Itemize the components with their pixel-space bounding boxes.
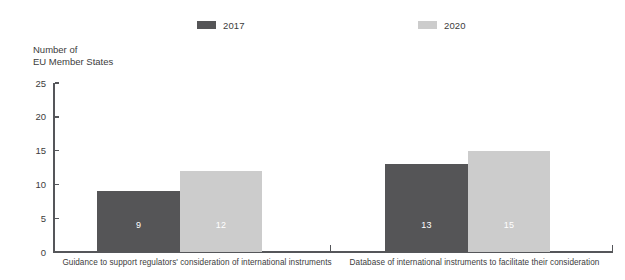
legend-label-2020: 2020 bbox=[444, 20, 466, 31]
y-tick-mark-20 bbox=[55, 116, 59, 117]
bar-2020-guidance[interactable]: 12 bbox=[180, 171, 262, 252]
plot-area: 25 20 15 10 5 0 9 12 13 15 bbox=[53, 83, 613, 252]
legend-item-2017[interactable]: 2017 bbox=[197, 14, 245, 36]
y-tick-mark-15 bbox=[55, 150, 59, 151]
bar-value-2017-database: 13 bbox=[385, 220, 468, 230]
y-tick-mark-10 bbox=[55, 184, 59, 185]
category-label-database: Database of international instruments to… bbox=[327, 258, 622, 267]
y-tick-mark-5 bbox=[55, 218, 59, 219]
legend-swatch-icon-2020 bbox=[418, 21, 437, 29]
chart-legend: 2017 2020 bbox=[0, 14, 625, 36]
y-tick-label-5: 5 bbox=[41, 213, 46, 224]
y-tick-label-10: 10 bbox=[35, 179, 46, 190]
y-tick-mark-0 bbox=[55, 251, 59, 252]
bar-value-2020-database: 15 bbox=[468, 220, 550, 230]
y-axis-title-line1: Number of bbox=[33, 44, 77, 55]
legend-swatch-icon-2017 bbox=[197, 21, 216, 29]
y-tick-label-0: 0 bbox=[41, 247, 46, 258]
y-axis-title: Number ofEU Member States bbox=[33, 44, 113, 68]
legend-label-2017: 2017 bbox=[223, 20, 245, 31]
bar-value-2017-guidance: 9 bbox=[97, 220, 180, 230]
y-tick-label-15: 15 bbox=[35, 145, 46, 156]
y-tick-label-25: 25 bbox=[35, 78, 46, 89]
bar-2020-database[interactable]: 15 bbox=[468, 151, 550, 252]
bar-2017-guidance[interactable]: 9 bbox=[97, 191, 180, 252]
category-label-guidance: Guidance to support regulators' consider… bbox=[37, 258, 357, 267]
bar-2017-database[interactable]: 13 bbox=[385, 164, 468, 252]
y-tick-mark-25 bbox=[55, 82, 59, 83]
y-axis-title-line2: EU Member States bbox=[33, 56, 113, 67]
y-tick-label-20: 20 bbox=[35, 111, 46, 122]
x-tick-category-separator bbox=[330, 245, 331, 252]
bar-value-2020-guidance: 12 bbox=[180, 220, 262, 230]
x-tick-axis-end bbox=[612, 245, 613, 252]
legend-item-2020[interactable]: 2020 bbox=[418, 14, 466, 36]
